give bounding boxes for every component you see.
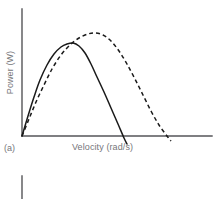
dashed-power-curve [22,33,171,141]
panel-letter-label: (a) [4,144,15,153]
x-axis-label: Velocity (rad/s) [72,143,133,152]
plot-canvas [0,0,216,199]
figure-panel-a: Power (W) Velocity (rad/s) (a) [0,0,216,199]
y-axis-label: Power (W) [6,38,15,108]
solid-power-curve [22,43,127,144]
